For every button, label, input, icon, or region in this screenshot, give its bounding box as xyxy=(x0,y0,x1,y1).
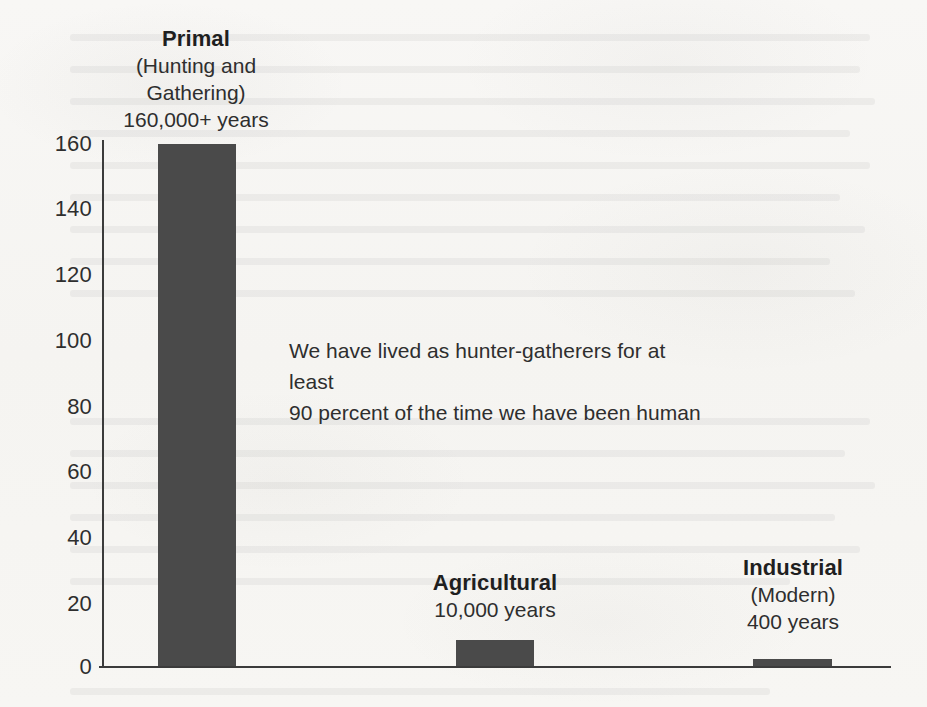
bar-label-agricultural-years: 10,000 years xyxy=(380,596,610,623)
chart-annotation: We have lived as hunter-gatherers for at… xyxy=(289,335,709,428)
bar-label-industrial-years: 400 years xyxy=(678,608,908,635)
bar-label-primal-years: 160,000+ years xyxy=(81,106,311,133)
y-tick-60: 60 xyxy=(6,461,92,483)
bar-agricultural xyxy=(456,640,534,666)
bar-label-industrial-name: Industrial xyxy=(678,554,908,581)
x-axis-line xyxy=(99,666,891,668)
y-tick-140: 140 xyxy=(6,198,92,220)
bar-label-agricultural: Agricultural 10,000 years xyxy=(380,569,610,623)
chart-page: 160 140 120 100 80 60 40 20 0 Primal (Hu… xyxy=(0,0,927,707)
y-tick-80: 80 xyxy=(6,396,92,418)
y-tick-100: 100 xyxy=(6,330,92,352)
y-axis-tick-labels: 160 140 120 100 80 60 40 20 0 xyxy=(0,0,92,707)
bar-label-primal: Primal (Hunting and Gathering) 160,000+ … xyxy=(81,25,311,133)
bar-industrial xyxy=(753,659,832,666)
chart-annotation-line2: 90 percent of the time we have been huma… xyxy=(289,397,709,428)
bar-label-primal-name: Primal xyxy=(81,25,311,52)
y-tick-20: 20 xyxy=(6,593,92,615)
bar-label-agricultural-name: Agricultural xyxy=(380,569,610,596)
y-tick-40: 40 xyxy=(6,527,92,549)
plot-area: 160 140 120 100 80 60 40 20 0 Primal (Hu… xyxy=(0,0,927,707)
y-tick-160: 160 xyxy=(6,133,92,155)
bar-label-industrial: Industrial (Modern) 400 years xyxy=(678,554,908,635)
y-tick-0: 0 xyxy=(6,656,92,678)
bar-label-primal-sub: (Hunting and xyxy=(81,52,311,79)
chart-annotation-line1: We have lived as hunter-gatherers for at… xyxy=(289,335,709,397)
bar-primal xyxy=(158,144,236,666)
bar-label-industrial-sub: (Modern) xyxy=(678,581,908,608)
y-tick-120: 120 xyxy=(6,264,92,286)
y-axis-line xyxy=(102,140,104,668)
bar-label-primal-sub2: Gathering) xyxy=(81,79,311,106)
